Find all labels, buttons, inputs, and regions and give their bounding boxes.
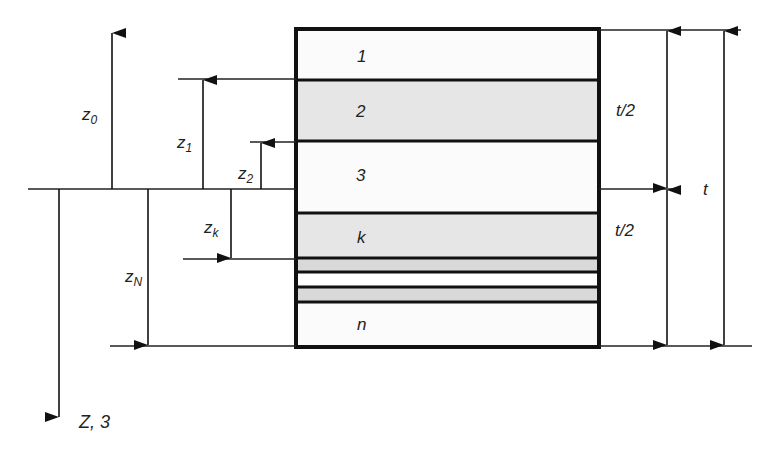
z2-label: z2 — [238, 165, 253, 185]
layer-label-1: 1 — [357, 48, 366, 65]
layer-label-k: k — [357, 229, 366, 246]
layer-thin-1 — [296, 258, 599, 272]
layer-n — [296, 302, 599, 347]
total-thickness-label: t — [703, 181, 708, 198]
zk-label: zk — [204, 219, 219, 239]
layer-k — [296, 213, 599, 258]
layer-label-n: n — [357, 316, 366, 333]
laminate-diagram — [0, 0, 778, 458]
layer-thin-3 — [296, 287, 599, 302]
layer-label-3: 3 — [356, 167, 365, 184]
layer-stack — [296, 29, 599, 347]
half-top-label: t/2 — [616, 102, 635, 119]
layer-1 — [296, 29, 599, 80]
layer-thin-2 — [296, 272, 599, 287]
layer-3 — [296, 141, 599, 213]
z0-label: z0 — [82, 106, 97, 126]
half-bottom-label: t/2 — [615, 222, 634, 239]
layer-2 — [296, 80, 599, 141]
z1-label: z1 — [177, 134, 192, 154]
layer-label-2: 2 — [356, 103, 365, 120]
z-axis-label: Z, 3 — [79, 413, 110, 431]
zN-label: zN — [125, 268, 142, 288]
